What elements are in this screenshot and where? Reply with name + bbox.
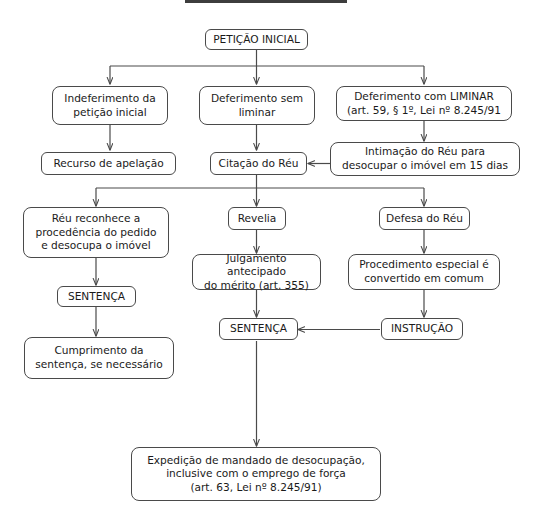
- flowchart-canvas: PETIÇÃO INICIAL Indeferimento da petição…: [0, 0, 534, 519]
- node-cumprimento-da-sentenca[interactable]: Cumprimento da sentença, se necessário: [24, 337, 174, 379]
- node-peticao-inicial[interactable]: PETIÇÃO INICIAL: [205, 29, 308, 50]
- node-expedicao-mandado-desocupacao[interactable]: Expedição de mandado de desocupação, inc…: [131, 447, 381, 501]
- node-intimacao-do-reu[interactable]: Intimação do Réu para desocupar o imóvel…: [330, 142, 520, 176]
- node-revelia[interactable]: Revelia: [228, 207, 286, 230]
- node-defesa-do-reu[interactable]: Defesa do Réu: [379, 207, 470, 230]
- node-procedimento-especial[interactable]: Procedimento especial é convertido em co…: [348, 254, 500, 290]
- node-deferimento-sem-liminar[interactable]: Deferimento sem liminar: [199, 86, 315, 125]
- node-sentenca-esquerda[interactable]: SENTENÇA: [57, 286, 136, 307]
- title-underline-bar: [185, 0, 347, 3]
- node-recurso-de-apelacao[interactable]: Recurso de apelação: [41, 152, 176, 175]
- node-sentenca-centro[interactable]: SENTENÇA: [219, 318, 298, 340]
- node-indeferimento-peticao-inicial[interactable]: Indeferimento da petição inicial: [52, 86, 168, 125]
- node-julgamento-antecipado[interactable]: Julgamento antecipado do mérito (art. 35…: [192, 254, 321, 290]
- node-citacao-do-reu[interactable]: Citação do Réu: [210, 152, 307, 175]
- node-reu-reconhece-procedencia[interactable]: Réu reconhece a procedência do pedido e …: [23, 207, 169, 258]
- node-instrucao[interactable]: INSTRUÇÃO: [381, 318, 463, 340]
- node-deferimento-com-liminar[interactable]: Deferimento com LIMINAR (art. 59, § 1º, …: [336, 86, 512, 121]
